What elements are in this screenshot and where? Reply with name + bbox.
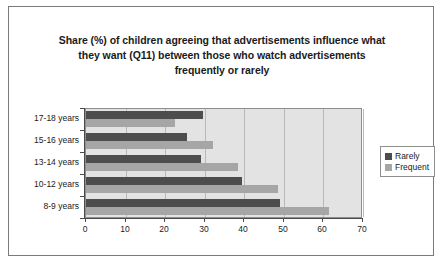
legend-label-frequent: Frequent xyxy=(395,162,429,172)
y-tick-1 xyxy=(80,130,84,131)
x-tick-label-20: 20 xyxy=(152,224,176,234)
gridline-x-60 xyxy=(323,109,324,217)
y-tick-2 xyxy=(80,152,84,153)
chart-frame: Share (%) of children agreeing that adve… xyxy=(8,6,434,256)
x-tick-label-70: 70 xyxy=(350,224,374,234)
y-tick-3 xyxy=(80,174,84,175)
y-axis-labels: 17-18 years15-16 years13-14 years10-12 y… xyxy=(9,108,79,218)
x-tick-label-40: 40 xyxy=(231,224,255,234)
x-tick-label-0: 0 xyxy=(73,224,97,234)
bar-rarely-4 xyxy=(86,199,280,207)
x-tick-30 xyxy=(204,218,205,222)
chart-title: Share (%) of children agreeing that adve… xyxy=(35,33,409,78)
chart-title-line-1: Share (%) of children agreeing that adve… xyxy=(35,33,409,48)
y-axis-label-1: 15-16 years xyxy=(13,135,79,145)
y-tick-4 xyxy=(80,196,84,197)
legend-item-rarely: Rarely xyxy=(385,151,429,161)
x-tick-10 xyxy=(125,218,126,222)
chart-title-line-2: they want (Q11) between those who watch … xyxy=(35,48,409,63)
y-axis-line xyxy=(84,108,85,218)
chart-legend: Rarely Frequent xyxy=(380,146,435,177)
x-tick-20 xyxy=(164,218,165,222)
x-tick-label-60: 60 xyxy=(310,224,334,234)
x-tick-40 xyxy=(243,218,244,222)
bar-rarely-1 xyxy=(86,133,187,141)
gridline-x-50 xyxy=(284,109,285,217)
bar-frequent-1 xyxy=(86,141,213,149)
y-axis-label-3: 10-12 years xyxy=(13,179,79,189)
x-tick-0 xyxy=(85,218,86,222)
bar-frequent-3 xyxy=(86,185,278,193)
bar-rarely-3 xyxy=(86,177,242,185)
plot-area xyxy=(85,108,362,218)
bar-frequent-4 xyxy=(86,207,329,215)
x-tick-label-10: 10 xyxy=(113,224,137,234)
legend-label-rarely: Rarely xyxy=(395,151,420,161)
bar-frequent-2 xyxy=(86,163,238,171)
gridline-x-70 xyxy=(363,109,364,217)
bar-frequent-0 xyxy=(86,119,175,127)
x-tick-60 xyxy=(322,218,323,222)
x-tick-50 xyxy=(283,218,284,222)
y-tick-0 xyxy=(80,108,84,109)
bar-rarely-2 xyxy=(86,155,201,163)
y-axis-label-4: 8-9 years xyxy=(13,201,79,211)
x-tick-label-30: 30 xyxy=(192,224,216,234)
x-tick-70 xyxy=(362,218,363,222)
legend-swatch-rarely xyxy=(385,153,392,160)
y-axis-label-0: 17-18 years xyxy=(13,113,79,123)
legend-item-frequent: Frequent xyxy=(385,162,429,172)
y-tick-end xyxy=(80,218,84,219)
bar-rarely-0 xyxy=(86,111,203,119)
y-axis-label-2: 13-14 years xyxy=(13,157,79,167)
legend-swatch-frequent xyxy=(385,164,392,171)
chart-title-line-3: frequently or rarely xyxy=(35,63,409,78)
x-tick-label-50: 50 xyxy=(271,224,295,234)
